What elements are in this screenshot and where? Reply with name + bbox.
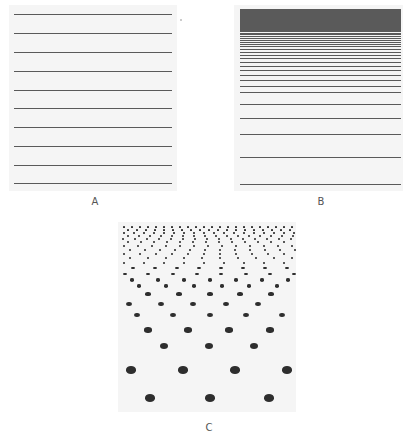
dot — [137, 284, 142, 287]
dot — [283, 262, 286, 264]
dot — [163, 262, 166, 264]
dot — [139, 253, 142, 255]
dot — [123, 273, 127, 276]
dot — [220, 284, 225, 287]
dot — [234, 278, 238, 281]
dot — [263, 267, 266, 269]
dot — [171, 226, 172, 227]
horizontal-line — [14, 146, 172, 147]
dot — [129, 257, 132, 259]
dot — [123, 253, 126, 255]
horizontal-line — [240, 40, 401, 41]
dot — [293, 232, 295, 233]
horizontal-line — [14, 33, 172, 34]
dot — [171, 235, 173, 236]
dot — [204, 235, 206, 236]
dot — [270, 241, 272, 243]
dot — [266, 327, 273, 332]
dot — [262, 229, 264, 230]
dot — [160, 343, 168, 349]
horizontal-line — [240, 36, 401, 37]
dot — [144, 327, 151, 332]
dot — [237, 257, 240, 259]
dot — [243, 226, 244, 227]
dot — [190, 302, 196, 306]
dot — [268, 292, 273, 296]
dot — [197, 267, 200, 269]
dot — [267, 253, 270, 255]
dot — [147, 257, 150, 259]
dot — [242, 238, 244, 239]
dot — [289, 229, 291, 230]
dot — [249, 245, 251, 247]
dot — [153, 241, 155, 243]
dot — [155, 226, 156, 227]
dot — [149, 235, 151, 236]
dot — [219, 253, 222, 255]
dot — [182, 235, 184, 236]
dot — [130, 278, 134, 281]
horizontal-line — [240, 31, 401, 32]
dot — [131, 226, 132, 227]
dot — [192, 284, 197, 287]
dot — [203, 226, 204, 227]
dot — [275, 284, 280, 287]
dot — [218, 238, 220, 239]
dot — [201, 257, 204, 259]
dot — [279, 313, 285, 318]
panel-a-label: A — [92, 196, 99, 207]
dot — [204, 249, 206, 251]
dot — [205, 394, 215, 402]
dot — [192, 241, 194, 243]
dot — [255, 257, 258, 259]
dot — [145, 394, 155, 402]
dot — [145, 229, 147, 230]
dot — [223, 302, 229, 306]
dot — [244, 273, 248, 276]
dot — [122, 238, 124, 239]
dot — [280, 229, 282, 230]
dot — [279, 249, 281, 251]
dot — [237, 235, 239, 236]
horizontal-line — [240, 92, 401, 93]
dot — [160, 235, 162, 236]
dot — [254, 238, 256, 239]
dot — [243, 313, 249, 318]
horizontal-line — [240, 34, 401, 35]
dot — [156, 278, 160, 281]
dot — [267, 226, 268, 227]
horizontal-line — [240, 42, 401, 43]
dot — [179, 226, 180, 227]
dot — [175, 267, 178, 269]
horizontal-line — [14, 183, 172, 184]
dot — [268, 273, 272, 276]
dot — [283, 253, 286, 255]
dot — [158, 302, 164, 306]
dot — [207, 313, 213, 318]
dot — [244, 241, 246, 243]
dot — [171, 273, 175, 276]
dot — [257, 241, 259, 243]
dot — [264, 249, 266, 251]
dot — [131, 267, 134, 269]
dot — [143, 262, 146, 264]
dot — [264, 394, 274, 402]
dot — [133, 232, 135, 233]
dot — [179, 241, 181, 243]
dot — [173, 232, 175, 233]
horizontal-line — [14, 127, 172, 128]
dot — [248, 235, 250, 236]
dot — [207, 245, 209, 247]
panel-c-label: C — [206, 422, 213, 433]
dot — [249, 249, 251, 251]
dot — [237, 292, 242, 296]
horizontal-line — [240, 55, 401, 56]
panel-c-perspective-dots — [118, 222, 296, 412]
dot — [226, 229, 228, 230]
dot — [126, 366, 136, 373]
dot — [215, 235, 217, 236]
dot — [143, 232, 145, 233]
dot — [182, 238, 184, 239]
dot — [259, 226, 260, 227]
dot — [195, 226, 196, 227]
